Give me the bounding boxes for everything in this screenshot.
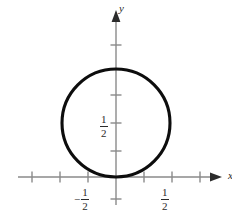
x-tick-label-minus-half-sign: − bbox=[74, 194, 80, 205]
x-axis-label-text: x bbox=[228, 169, 232, 181]
y-axis-label: y bbox=[119, 3, 124, 14]
x-tick-label-positive-half: 1 2 bbox=[160, 187, 169, 212]
coordinate-plot bbox=[0, 0, 232, 223]
y-tick-label-half: 1 2 bbox=[99, 114, 108, 139]
x-axis-label: x bbox=[228, 170, 232, 181]
y-axis-label-text: y bbox=[119, 2, 124, 14]
graph-figure: y x 1 2 − 1 2 1 2 bbox=[0, 0, 232, 223]
x-tick-label-positive-half-fraction: 1 2 bbox=[161, 187, 169, 212]
x-tick-label-positive-half-denominator: 2 bbox=[161, 201, 169, 212]
x-axis-arrowhead bbox=[210, 173, 222, 182]
x-tick-label-minus-half-numerator: 1 bbox=[81, 187, 89, 198]
y-tick-label-half-denominator: 2 bbox=[100, 128, 108, 139]
y-tick-label-half-fraction: 1 2 bbox=[100, 114, 108, 139]
x-tick-label-minus-half-fraction: 1 2 bbox=[81, 187, 89, 212]
x-tick-label-positive-half-numerator: 1 bbox=[161, 187, 169, 198]
x-tick-label-minus-half: − 1 2 bbox=[74, 187, 89, 212]
y-tick-label-half-numerator: 1 bbox=[100, 114, 108, 125]
x-tick-label-minus-half-denominator: 2 bbox=[81, 201, 89, 212]
